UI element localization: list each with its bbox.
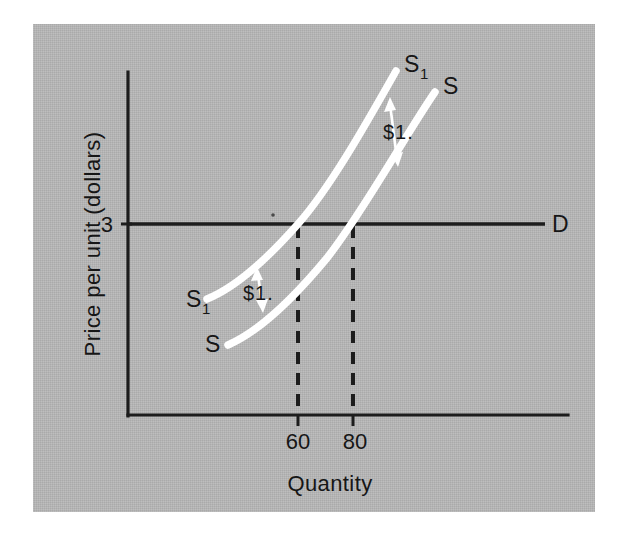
demand-curve-label: D (552, 211, 569, 237)
axis-group (128, 72, 568, 416)
supply-label-s1-bottom-base: S (186, 286, 201, 312)
y-axis-title: Price per unit (dollars) (80, 132, 105, 357)
supply-label-s1-top-base: S (404, 51, 419, 77)
supply-label-s1-bottom-sub: 1 (202, 300, 210, 317)
supply-label-s1-bottom: S 1 (186, 286, 210, 317)
shift-amount-label-upper: $1. (383, 121, 414, 143)
figure-root: Price per unit (dollars) 3 60 80 Quantit… (0, 0, 629, 546)
x-axis-title: Quantity (287, 471, 372, 496)
supply-label-s1-top: S 1 (404, 51, 428, 82)
x-tick-label-80: 80 (343, 429, 367, 454)
supply-label-s-top: S (443, 73, 458, 99)
supply-curve-s1 (207, 71, 396, 299)
x-tick-label-60: 60 (286, 429, 310, 454)
shift-amount-label-lower: $1. (243, 282, 274, 304)
y-tick-label-3: 3 (101, 212, 113, 237)
supply-demand-chart: Price per unit (dollars) 3 60 80 Quantit… (0, 0, 629, 546)
supply-label-s-bottom: S (205, 331, 220, 357)
supply-label-s1-top-sub: 1 (420, 65, 428, 82)
print-speck (271, 213, 275, 217)
